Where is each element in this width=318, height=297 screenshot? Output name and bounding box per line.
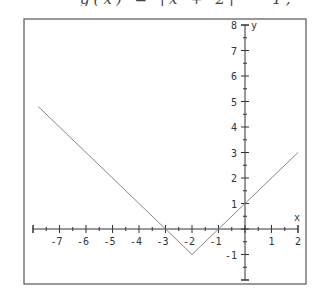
tick-labels: -7-6-5-4-3-2-112-112345678 [50,20,301,261]
chart-plot: -7-6-5-4-3-2-112-112345678 x y [0,0,318,297]
y-tick-label: 1 [231,199,237,210]
x-tick-label: -4 [130,236,142,247]
y-tick-label: 3 [231,148,237,159]
y-axis-label: y [251,20,257,31]
y-tick-label: -1 [225,250,237,261]
y-tick-label: 6 [231,71,237,82]
x-tick-label: -3 [156,236,168,247]
y-tick-label: 5 [231,97,237,108]
y-tick-label: 2 [231,173,237,184]
x-tick-label: 2 [295,236,301,247]
x-tick-label: -5 [103,236,115,247]
x-tick-label: -2 [183,236,195,247]
x-tick-label: -6 [77,236,89,247]
y-tick-label: 4 [231,122,237,133]
x-axis-label: x [294,212,300,223]
y-tick-label: 8 [231,20,237,31]
function-curve [38,107,298,255]
x-tick-label: 1 [268,236,274,247]
x-tick-label: -7 [50,236,62,247]
x-tick-label: -1 [209,236,221,247]
y-tick-label: 7 [231,46,237,57]
